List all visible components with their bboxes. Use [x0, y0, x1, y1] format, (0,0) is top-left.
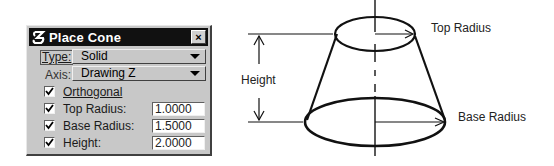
height-diagram-label: Height — [241, 73, 276, 87]
base-radius-diagram-label: Base Radius — [458, 110, 526, 124]
top-radius-diagram-label: Top Radius — [431, 21, 491, 35]
